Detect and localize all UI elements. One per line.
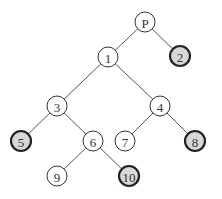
node-label: 10 [123, 170, 136, 185]
node-3: 3 [47, 96, 67, 116]
node-label: 1 [105, 51, 112, 66]
node-label: 9 [54, 170, 61, 185]
edge-3-6 [64, 113, 86, 134]
tree-nodes: P12345678910 [11, 12, 205, 186]
node-5: 5 [11, 131, 31, 151]
node-9: 9 [47, 166, 67, 186]
node-label: 8 [192, 135, 199, 150]
edge-P-1 [115, 29, 137, 50]
node-10: 10 [119, 166, 139, 186]
node-4: 4 [150, 96, 170, 116]
node-8: 8 [185, 131, 205, 151]
edge-P-2 [152, 29, 173, 49]
node-label: 6 [90, 135, 97, 150]
node-6: 6 [83, 131, 103, 151]
node-P: P [135, 12, 155, 32]
node-label: P [141, 16, 148, 31]
node-label: 3 [54, 100, 61, 115]
node-label: 7 [122, 135, 129, 150]
node-label: 4 [157, 100, 164, 115]
edge-4-8 [167, 113, 188, 134]
node-2: 2 [170, 46, 190, 66]
edge-3-5 [28, 113, 50, 134]
edge-1-4 [115, 64, 152, 99]
node-label: 5 [18, 135, 25, 150]
edge-6-9 [64, 148, 86, 169]
node-label: 2 [177, 50, 184, 65]
edge-4-7 [132, 113, 153, 134]
node-7: 7 [115, 131, 135, 151]
tree-diagram: P12345678910 [0, 0, 222, 199]
node-1: 1 [98, 47, 118, 67]
edge-1-3 [64, 64, 101, 99]
edge-6-10 [100, 148, 122, 169]
